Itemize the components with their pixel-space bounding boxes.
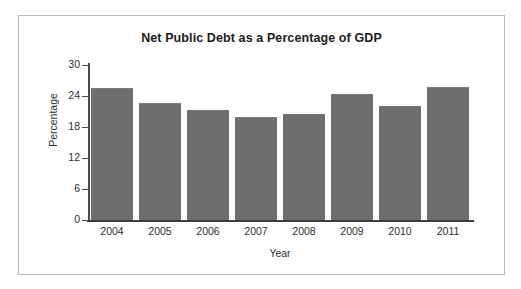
x-axis-tick-label: 2009 bbox=[328, 225, 376, 237]
y-axis-tick-label: 6 bbox=[36, 182, 80, 194]
y-axis-tick-label: 12 bbox=[36, 151, 80, 163]
bar-2007[interactable] bbox=[235, 117, 276, 220]
x-axis-tick-label: 2007 bbox=[232, 225, 280, 237]
plot-area bbox=[88, 65, 472, 220]
bar-slot bbox=[376, 65, 424, 220]
bar-2004[interactable] bbox=[91, 88, 132, 220]
bar-slot bbox=[88, 65, 136, 220]
bar-2008[interactable] bbox=[283, 114, 324, 220]
bar-2006[interactable] bbox=[187, 110, 228, 220]
bar-2010[interactable] bbox=[379, 106, 420, 220]
x-axis-line bbox=[87, 220, 474, 222]
x-axis-tick-label: 2011 bbox=[424, 225, 472, 237]
y-axis-tick-label: 0 bbox=[36, 213, 80, 225]
x-axis-title: Year bbox=[88, 247, 472, 259]
y-axis-tick-label: 30 bbox=[36, 58, 80, 70]
y-axis-tick-label: 24 bbox=[36, 89, 80, 101]
bar-2011[interactable] bbox=[427, 87, 468, 220]
bar-slot bbox=[280, 65, 328, 220]
chart-title: Net Public Debt as a Percentage of GDP bbox=[19, 31, 504, 45]
x-axis-tick-label: 2008 bbox=[280, 225, 328, 237]
y-axis-tick bbox=[82, 220, 88, 221]
bar-slot bbox=[136, 65, 184, 220]
y-axis-tick-label: 18 bbox=[36, 120, 80, 132]
x-axis-tick-label: 2006 bbox=[184, 225, 232, 237]
chart-figure-frame: Net Public Debt as a Percentage of GDP P… bbox=[18, 15, 505, 275]
bar-slot bbox=[328, 65, 376, 220]
bar-slot bbox=[184, 65, 232, 220]
x-axis-tick-label: 2010 bbox=[376, 225, 424, 237]
x-axis-tick-labels: 20042005200620072008200920102011 bbox=[88, 225, 472, 237]
x-axis-tick-label: 2004 bbox=[88, 225, 136, 237]
bar-2005[interactable] bbox=[139, 103, 180, 220]
bar-slot bbox=[424, 65, 472, 220]
bar-series bbox=[88, 65, 472, 220]
bar-slot bbox=[232, 65, 280, 220]
bar-2009[interactable] bbox=[331, 94, 372, 220]
x-axis-tick-label: 2005 bbox=[136, 225, 184, 237]
